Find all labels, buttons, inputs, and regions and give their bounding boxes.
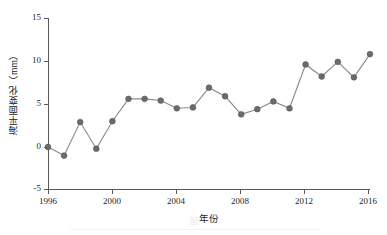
data-point (190, 105, 196, 111)
x-tick-label-2004: 2004 (167, 196, 185, 206)
data-point (61, 153, 67, 159)
data-point (271, 99, 277, 105)
data-point (93, 146, 99, 152)
data-point (319, 74, 325, 80)
series-line (48, 54, 370, 155)
data-point (158, 98, 164, 104)
data-point (367, 51, 373, 57)
data-point (142, 96, 148, 102)
figure-caption: 图 (0, 215, 387, 226)
y-tick-label-0: 0 (37, 141, 42, 151)
data-series-sea-level (48, 18, 370, 190)
x-tick-label-2000: 2000 (103, 196, 121, 206)
data-point (45, 144, 51, 150)
x-tick-label-1996: 1996 (39, 196, 57, 206)
series-markers (45, 51, 373, 158)
x-tick-label-2012: 2012 (295, 196, 313, 206)
x-tick-label-2016: 2016 (359, 196, 377, 206)
data-point (254, 106, 260, 112)
y-tick-label-15: 15 (32, 12, 41, 22)
data-point (174, 105, 180, 111)
figure-container: 海平面变化（mm） 15 10 5 0 -5 1996 2000 2004 20… (0, 0, 387, 235)
caption-rule (70, 229, 320, 230)
data-point (238, 111, 244, 117)
data-point (206, 85, 212, 91)
y-tick-label-minus5: -5 (34, 183, 42, 193)
y-axis-title: 海平面变化（mm） (6, 30, 24, 155)
data-point (335, 59, 341, 65)
data-point (303, 62, 309, 68)
data-point (77, 119, 83, 125)
data-point (126, 96, 132, 102)
plot-area: 15 10 5 0 -5 1996 2000 2004 2008 2012 20… (48, 18, 370, 190)
data-point (351, 74, 357, 80)
y-tick-label-10: 10 (32, 55, 41, 65)
y-tick-label-5: 5 (37, 98, 42, 108)
x-tick-label-2008: 2008 (231, 196, 249, 206)
data-point (222, 93, 228, 99)
data-point (110, 118, 116, 124)
data-point (287, 105, 293, 111)
